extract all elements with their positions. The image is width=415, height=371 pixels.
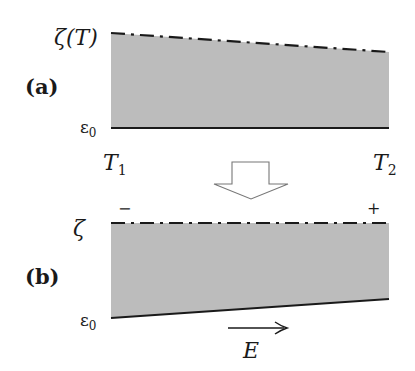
- temperature-right-label: T2: [373, 150, 397, 178]
- diagram: ζ(T) (a) ε0 T1 T2 − + ζ (b) ε0 E: [0, 0, 415, 371]
- down-arrow-icon: [214, 162, 288, 199]
- panel-b-band: [111, 223, 389, 318]
- positive-sign: +: [367, 199, 380, 218]
- panel-b-label: (b): [25, 264, 60, 289]
- negative-sign: −: [118, 199, 131, 218]
- panel-a-label: (a): [25, 74, 58, 99]
- panel-b-epsilon0-label: ε0: [80, 310, 96, 333]
- panel-a: ζ(T) (a) ε0 T1 T2: [25, 25, 397, 178]
- electric-field-arrow-icon: [228, 322, 287, 334]
- temperature-left-label: T1: [103, 150, 127, 178]
- panel-b-zeta-label: ζ: [73, 216, 87, 241]
- panel-a-band: [111, 33, 389, 128]
- panel-a-epsilon0-label: ε0: [80, 117, 96, 140]
- panel-b: − + ζ (b) ε0 E: [25, 199, 389, 363]
- panel-a-zeta-label: ζ(T): [54, 25, 98, 50]
- electric-field-label: E: [242, 338, 259, 363]
